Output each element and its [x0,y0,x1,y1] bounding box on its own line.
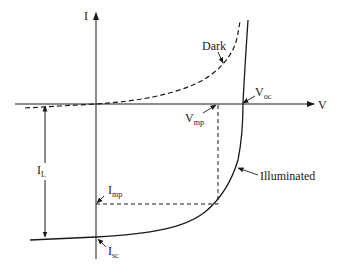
voc-label: Voc [255,86,271,101]
vmp-pointer-arrow [203,105,216,113]
dark-curve [25,21,240,108]
dark-pointer-arrow [218,52,223,63]
voc-label-sub: oc [264,92,272,101]
imp-label: Imp [108,184,122,199]
il-label-sub: L [41,170,46,179]
illuminated-label: Illuminated [260,170,315,182]
voc-label-main: V [255,85,264,99]
iv-diagram: I V Dark Illuminated Voc Vmp Imp Isc IL [0,0,343,274]
imp-label-sub: mp [112,190,122,199]
imp-pointer-arrow [97,196,104,203]
vmp-label-sub: mp [194,118,204,127]
y-axis-label: I [84,10,88,22]
dark-label: Dark [202,40,226,52]
illuminated-curve [30,20,248,240]
isc-label: Isc [108,245,119,260]
x-axis-label: V [318,99,327,111]
vmp-label: Vmp [185,112,204,127]
il-label: IL [37,163,46,180]
diagram-canvas [0,0,343,274]
voc-pointer-arrow [243,96,255,103]
illuminated-pointer-arrow [238,168,258,175]
isc-label-sub: sc [112,251,119,260]
isc-pointer-arrow [98,239,106,247]
vmp-label-main: V [185,111,194,125]
